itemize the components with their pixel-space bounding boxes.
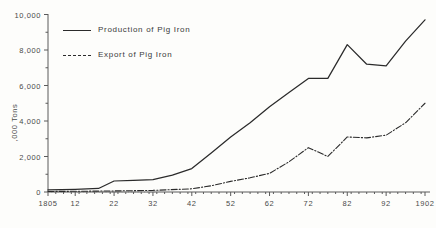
series-line-export bbox=[48, 103, 425, 191]
y-axis-ticks bbox=[44, 15, 48, 193]
y-axis-tick-label: 4,000 bbox=[0, 117, 41, 126]
legend-item-export: Export of Pig Iron bbox=[63, 50, 172, 59]
x-axis-tick-label: 32 bbox=[148, 199, 158, 208]
series-line-production bbox=[48, 20, 425, 190]
axes-group bbox=[48, 14, 430, 192]
x-axis-tick-label: 1902 bbox=[415, 199, 434, 208]
x-axis-tick-label: 1805 bbox=[38, 199, 57, 208]
legend-swatch-dashdot-line bbox=[63, 52, 91, 58]
x-axis-tick-label: 22 bbox=[109, 199, 119, 208]
legend-label-production: Production of Pig Iron bbox=[98, 25, 190, 34]
pig-iron-line-chart: ,000 Tons 02,0004,0006,0008,00010,000 18… bbox=[0, 0, 436, 228]
x-axis-tick-label: 42 bbox=[187, 199, 197, 208]
x-axis-tick-label: 92 bbox=[381, 199, 391, 208]
chart-canvas bbox=[0, 0, 436, 228]
x-axis-tick-label: 12 bbox=[70, 199, 80, 208]
y-axis-tick-label: 0 bbox=[0, 188, 41, 197]
legend-item-production: Production of Pig Iron bbox=[63, 25, 190, 34]
x-axis-tick-label: 82 bbox=[342, 199, 352, 208]
y-axis-tick-label: 10,000 bbox=[0, 10, 41, 19]
y-axis-tick-label: 6,000 bbox=[0, 81, 41, 90]
legend-label-export: Export of Pig Iron bbox=[98, 50, 172, 59]
y-axis-tick-label: 8,000 bbox=[0, 46, 41, 55]
legend-swatch-solid-line bbox=[63, 27, 91, 33]
y-axis-tick-label: 2,000 bbox=[0, 152, 41, 161]
x-axis-tick-label: 52 bbox=[226, 199, 236, 208]
x-axis-tick-label: 72 bbox=[304, 199, 314, 208]
x-axis-ticks bbox=[48, 192, 425, 196]
x-axis-tick-label: 62 bbox=[265, 199, 275, 208]
